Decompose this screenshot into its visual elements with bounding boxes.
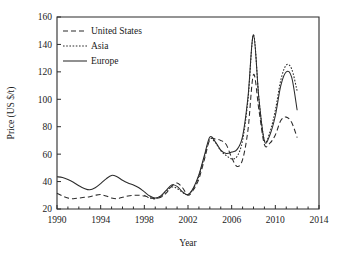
y-tick-label: 20 — [43, 204, 53, 214]
x-tick-label: 1994 — [91, 215, 110, 225]
y-axis-title: Price (US $/t) — [6, 87, 17, 140]
x-tick-label: 2010 — [266, 215, 285, 225]
chart-figure: 20406080100120140160 1990199419982002200… — [0, 0, 352, 257]
x-tick-label: 1998 — [135, 215, 154, 225]
y-tick-label: 160 — [38, 12, 53, 22]
line-chart: 20406080100120140160 1990199419982002200… — [0, 0, 352, 257]
x-axis-title: Year — [179, 238, 197, 248]
series-line-united-states — [57, 74, 297, 198]
y-tick-label: 60 — [43, 150, 53, 160]
y-tick-label: 80 — [43, 122, 53, 132]
y-tick-label: 120 — [38, 67, 53, 77]
legend-label-united-states: United States — [91, 26, 142, 36]
legend-label-asia: Asia — [91, 41, 109, 51]
x-axis-ticks: 1990199419982002200620102014 — [48, 205, 329, 225]
x-tick-label: 2002 — [179, 215, 198, 225]
y-tick-label: 140 — [38, 40, 53, 50]
x-tick-label: 2014 — [310, 215, 329, 225]
legend-label-europe: Europe — [91, 56, 118, 66]
x-tick-label: 1990 — [48, 215, 67, 225]
y-tick-label: 100 — [38, 95, 53, 105]
chart-legend: United StatesAsiaEurope — [63, 26, 142, 66]
y-tick-label: 40 — [43, 177, 53, 187]
series-line-asia — [144, 35, 297, 199]
x-tick-label: 2006 — [222, 215, 241, 225]
